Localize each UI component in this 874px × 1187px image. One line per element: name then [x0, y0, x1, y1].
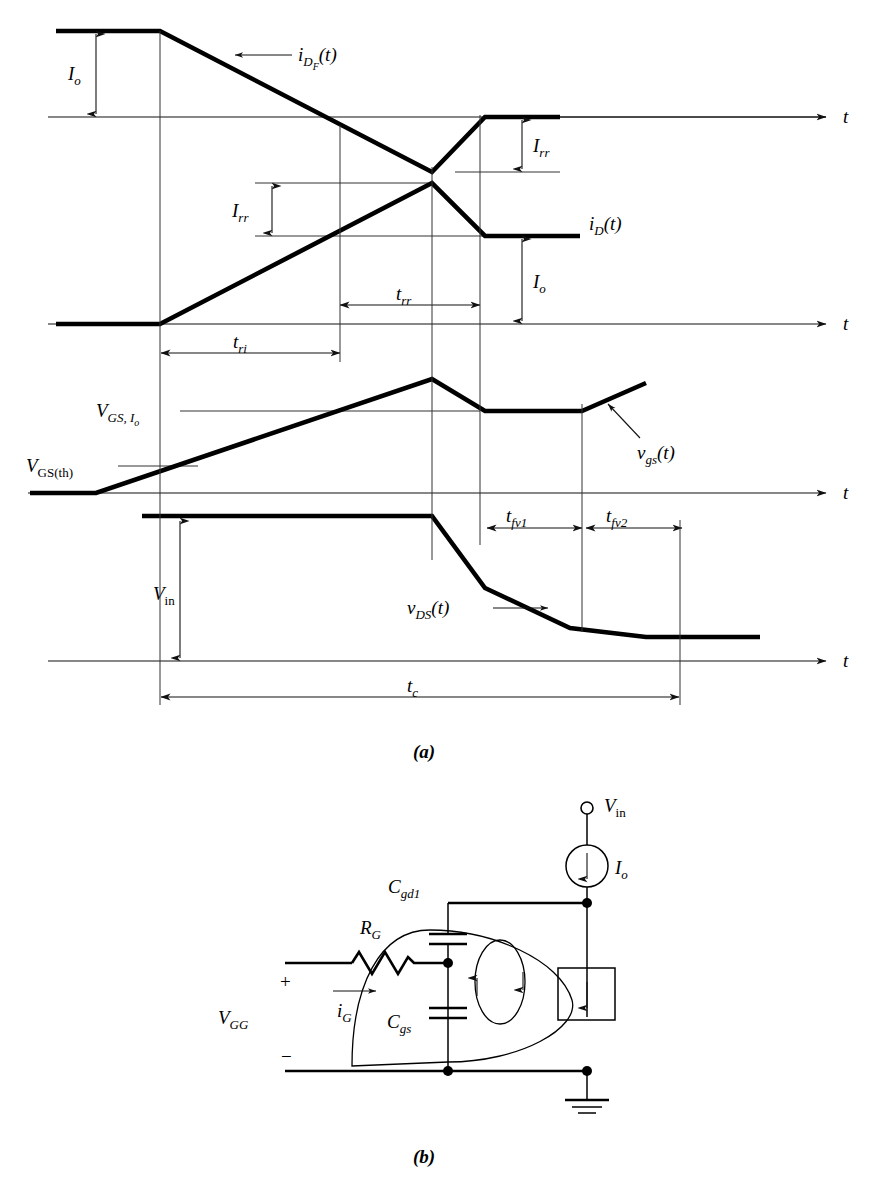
vin-circuit-label: Vin [604, 795, 626, 820]
axis-var-t-2: t [843, 313, 849, 334]
figure-svg: Io Irr iDF(t) t [0, 0, 874, 1187]
caption-part-a: (a) [413, 741, 435, 763]
vds-label: vDS(t) [407, 597, 449, 622]
vgs-callout-line [608, 404, 640, 438]
vgg-minus-terminal: − [281, 1046, 292, 1067]
vgs-label: vgs(t) [637, 442, 675, 467]
vin-label: Vin [153, 583, 175, 608]
vgs-plateau-label: VGS, Io [96, 400, 139, 428]
source-node-dot [443, 1066, 453, 1076]
vgs-threshold-label: VGS(th) [26, 455, 73, 480]
drain-current-trace [56, 183, 580, 324]
vin-terminal-icon [581, 802, 593, 814]
idf-label: iDF(t) [298, 44, 337, 72]
sense-loop-outer [352, 930, 573, 1066]
id-label: iD(t) [589, 213, 622, 238]
cgs-label: Cgs [387, 1011, 411, 1036]
tri-label: tri [233, 331, 247, 356]
cgd1-label: Cgd1 [388, 876, 420, 901]
io-label-2: Io [532, 271, 546, 296]
rg-label: RG [359, 917, 382, 942]
crossover-time-dimension: tc [161, 675, 679, 700]
vgg-plus-terminal: + [280, 971, 291, 992]
irr-label-2: Irr [231, 200, 249, 225]
irr-label-1: Irr [532, 135, 550, 160]
ig-label: iG [337, 1000, 352, 1025]
axis-var-t-4: t [843, 650, 849, 671]
axis-var-t-3: t [843, 482, 849, 503]
io-circuit-label: Io [614, 857, 628, 882]
gate-voltage-trace [30, 379, 646, 493]
waveform-drain-current: Irr Io iD(t) trr tri t [48, 183, 849, 356]
gate-resistor-icon [352, 952, 448, 974]
caption-part-b: (b) [413, 1146, 435, 1168]
drain-voltage-trace [142, 516, 760, 637]
waveform-diode-current: Io Irr iDF(t) t [48, 31, 849, 172]
io-label-1: Io [67, 63, 81, 88]
axis-var-t-1: t [843, 106, 849, 127]
construction-guides [160, 31, 680, 705]
waveform-drain-voltage: Vin tfv1 tfv2 vDS(t) t [48, 505, 849, 671]
figure-root: Io Irr iDF(t) t [0, 0, 874, 1187]
waveform-gate-voltage: VGS, Io VGS(th) vgs(t) t [26, 379, 849, 503]
tc-label: tc [407, 675, 418, 700]
tfv1-label: tfv1 [506, 505, 527, 530]
circuit-diagram: Vin Io Cgd1 [218, 795, 628, 1113]
sense-loop-inner [475, 940, 525, 1024]
vgg-label: VGG [218, 1007, 249, 1032]
tfv2-label: tfv2 [606, 505, 628, 530]
diode-current-trace [56, 31, 560, 172]
trr-label: trr [396, 283, 412, 308]
